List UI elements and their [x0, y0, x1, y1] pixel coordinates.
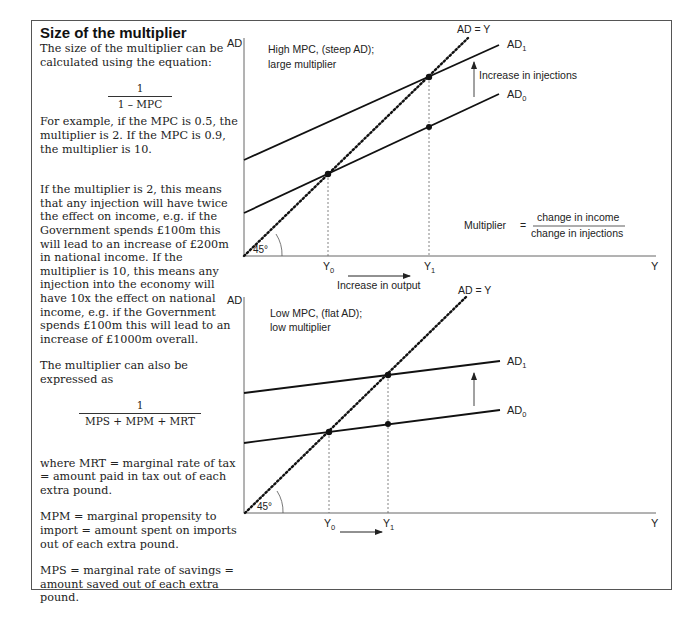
- angle-label: 45°: [257, 501, 272, 512]
- ad-equals-y-label: AD = Y: [458, 284, 491, 296]
- equilibrium-e1: [385, 372, 391, 378]
- ad1-label: AD1: [507, 355, 526, 370]
- ad0-line: [244, 410, 500, 443]
- ad-axis-label: AD: [227, 294, 242, 306]
- y1-tick-label: Y1: [383, 517, 394, 532]
- ad-equals-y-line: [244, 38, 468, 256]
- caption-line2: low multiplier: [270, 321, 331, 333]
- equilibrium-e1: [426, 74, 432, 80]
- ad0-point-y1: [426, 124, 432, 130]
- injections-label: Increase in injections: [479, 69, 577, 81]
- chart-high-mpc: AD Y High MPC, (steep AD); large multipl…: [227, 23, 659, 291]
- output-label: Increase in output: [337, 279, 421, 291]
- y0-tick-label: Y0: [324, 517, 335, 532]
- equilibrium-e0: [326, 429, 332, 435]
- y-axis-label: Y: [651, 260, 659, 272]
- ad-equals-y-label: AD = Y: [457, 23, 490, 35]
- ad0-point-y1: [385, 421, 391, 427]
- ad1-label: AD1: [507, 38, 526, 53]
- chart-low-mpc: AD Y Low MPC, (flat AD); low multiplier …: [227, 284, 659, 532]
- ad0-label: AD0: [507, 88, 526, 103]
- multiplier-numerator: change in income: [537, 211, 619, 223]
- caption-line1: High MPC, (steep AD);: [268, 43, 374, 55]
- angle-arc: [276, 234, 282, 256]
- y-axis-label: Y: [651, 517, 659, 529]
- angle-label: 45°: [253, 244, 268, 255]
- multiplier-denominator: change in injections: [531, 227, 623, 239]
- y1-tick-label: Y1: [424, 260, 435, 275]
- caption-line1: Low MPC, (flat AD);: [270, 307, 362, 319]
- ad0-line: [244, 94, 499, 213]
- ad0-label: AD0: [507, 404, 526, 419]
- diagrams: AD Y High MPC, (steep AD); large multipl…: [0, 0, 699, 629]
- equilibrium-e0: [325, 171, 331, 177]
- ad-axis-label: AD: [227, 37, 242, 49]
- multiplier-equals: =: [520, 219, 526, 231]
- y0-tick-label: Y0: [323, 260, 334, 275]
- caption-line2: large multiplier: [268, 58, 337, 70]
- multiplier-label: Multiplier: [464, 219, 507, 231]
- angle-arc: [277, 491, 283, 513]
